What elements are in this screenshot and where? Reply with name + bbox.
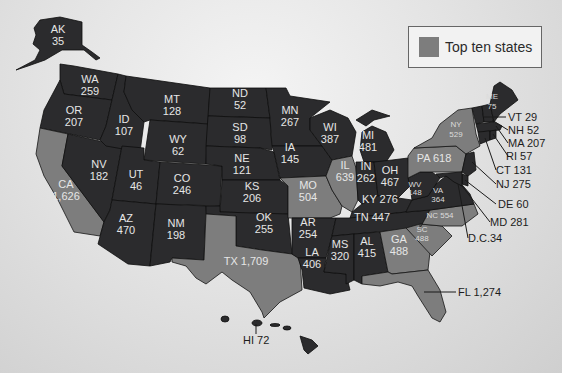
svg-text:DE 60: DE 60: [498, 198, 529, 210]
svg-text:RI 57: RI 57: [506, 150, 532, 162]
legend-swatch-top-ten: [419, 37, 439, 57]
svg-text:D.C.34: D.C.34: [468, 232, 502, 244]
svg-text:NM198: NM198: [167, 217, 185, 241]
svg-text:LA406: LA406: [303, 246, 321, 270]
svg-text:CO246: CO246: [173, 172, 191, 196]
svg-text:UT46: UT46: [129, 168, 144, 192]
map-legend: Top ten states: [408, 26, 542, 68]
svg-text:KS206: KS206: [243, 180, 261, 204]
svg-text:WV148: WV148: [408, 180, 422, 197]
svg-text:SD98: SD98: [232, 121, 247, 145]
svg-text:MT128: MT128: [163, 93, 181, 117]
svg-text:VT 29: VT 29: [508, 111, 537, 123]
svg-text:NV182: NV182: [90, 158, 108, 182]
svg-text:TN 447: TN 447: [354, 211, 390, 223]
svg-text:MA 207: MA 207: [508, 137, 545, 149]
svg-text:AL415: AL415: [358, 235, 376, 259]
svg-text:TX 1,709: TX 1,709: [224, 255, 269, 267]
svg-text:FL 1,274: FL 1,274: [458, 286, 501, 298]
state-CT[interactable]: [478, 131, 490, 144]
svg-text:PA 618: PA 618: [417, 152, 452, 164]
svg-text:AZ470: AZ470: [117, 212, 135, 236]
svg-text:NJ 275: NJ 275: [496, 178, 531, 190]
svg-text:GA488: GA488: [390, 233, 408, 257]
svg-text:NH 52: NH 52: [508, 124, 539, 136]
svg-text:WA259: WA259: [81, 73, 99, 97]
svg-text:CT 131: CT 131: [496, 164, 532, 176]
svg-text:NC 554: NC 554: [426, 211, 454, 220]
svg-text:ND52: ND52: [232, 87, 248, 111]
svg-text:KY 276: KY 276: [362, 193, 398, 205]
svg-text:HI 72: HI 72: [243, 334, 269, 346]
svg-text:MD 281: MD 281: [490, 216, 529, 228]
svg-text:AK35: AK35: [51, 23, 66, 47]
svg-text:SC488: SC488: [415, 225, 429, 243]
svg-text:AR254: AR254: [299, 216, 317, 240]
svg-text:OH467: OH467: [381, 164, 399, 188]
svg-text:NE121: NE121: [233, 152, 251, 176]
state-RI[interactable]: [490, 130, 496, 140]
svg-text:MO504: MO504: [299, 179, 317, 203]
svg-text:MS320: MS320: [331, 238, 349, 262]
svg-text:OR207: OR207: [65, 104, 83, 128]
svg-text:MN267: MN267: [281, 104, 299, 128]
state-HI[interactable]: [221, 316, 318, 354]
state-FL[interactable]: [362, 270, 446, 322]
svg-text:ME75: ME75: [486, 92, 498, 111]
svg-text:NY529: NY529: [449, 120, 463, 139]
svg-text:OK255: OK255: [255, 211, 273, 235]
legend-label: Top ten states: [445, 39, 532, 55]
svg-text:WI387: WI387: [321, 121, 339, 145]
